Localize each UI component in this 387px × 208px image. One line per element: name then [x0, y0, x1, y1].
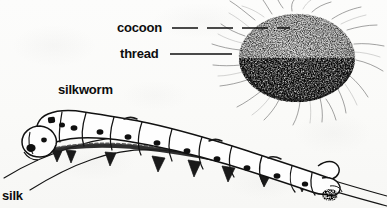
label-silkworm: silkworm	[58, 83, 113, 96]
silkworm-eye	[26, 144, 35, 152]
label-cocoon: cocoon	[117, 21, 162, 34]
cocoon-shadow	[237, 56, 359, 106]
cocoon-drawing	[212, 0, 384, 125]
label-silk: silk	[2, 189, 23, 202]
label-thread: thread	[120, 47, 159, 60]
illustration-artwork	[0, 0, 387, 208]
silkworm-drawing	[22, 111, 342, 201]
silkworm-cocoon-figure: cocoon thread silkworm silk	[0, 0, 387, 208]
